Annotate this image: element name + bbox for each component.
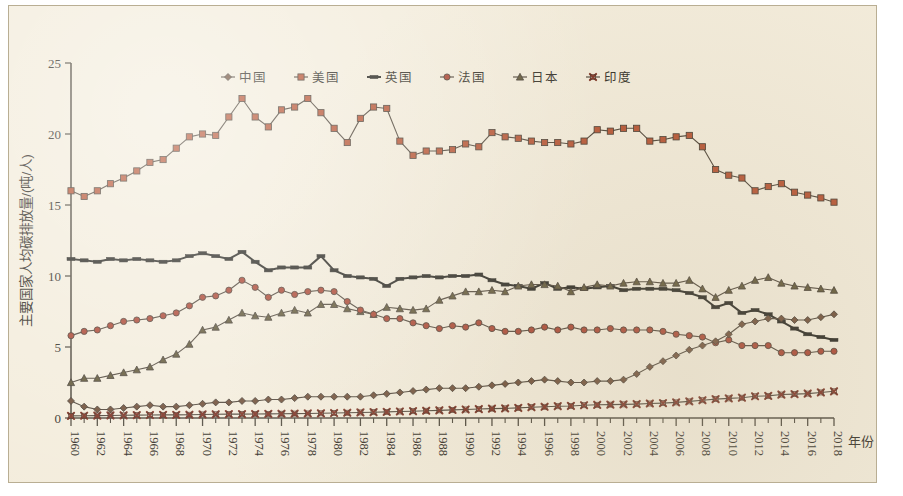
y-tick-label: 20 (48, 127, 61, 142)
x-tick-label: 2018 (831, 431, 845, 456)
y-tick-label: 15 (48, 198, 61, 213)
series-印度 (68, 388, 837, 419)
x-tick-label: 1968 (173, 431, 187, 456)
x-tick-label: 1980 (331, 431, 345, 456)
x-tick-label: 1960 (68, 431, 82, 456)
x-tick-label: 1976 (278, 431, 292, 456)
legend-label: 中国 (239, 70, 267, 85)
x-tick-label: 1978 (305, 431, 319, 456)
x-tick-label: 1970 (200, 431, 214, 456)
screenshot-page: 0510152025196019621964196619681970197219… (0, 0, 903, 496)
y-axis-label: 主要国家人均碳排放量/(吨/人) (18, 154, 34, 327)
series-法国 (68, 277, 837, 356)
chart-legend: 中国美国英国法国日本印度 (221, 70, 632, 85)
x-tick-label: 1982 (357, 431, 371, 456)
x-tick-label: 1990 (463, 431, 477, 456)
legend-label: 英国 (385, 71, 413, 85)
legend-label: 日本 (531, 71, 559, 85)
x-tick-label: 1994 (515, 431, 529, 457)
legend-item-印度[interactable]: 印度 (586, 70, 632, 85)
x-tick-label: 1988 (436, 431, 450, 456)
series-path (71, 280, 834, 352)
x-tick-label: 2014 (778, 431, 792, 457)
legend-item-英国[interactable]: 英国 (367, 71, 413, 85)
y-tick-label: 10 (48, 269, 61, 284)
legend-item-中国[interactable]: 中国 (221, 70, 267, 85)
chart-svg: 0510152025196019621964196619681970197219… (9, 6, 878, 484)
legend-item-法国[interactable]: 法国 (440, 71, 486, 85)
y-tick-label: 25 (48, 56, 61, 71)
x-tick-label: 2006 (673, 431, 687, 456)
x-tick-label: 1964 (121, 431, 135, 457)
x-tick-label: 1972 (226, 431, 240, 456)
x-tick-label: 1992 (489, 431, 503, 456)
x-tick-label: 2016 (805, 431, 819, 456)
legend-label: 印度 (604, 70, 632, 85)
x-tick-label: 1974 (252, 431, 266, 457)
x-tick-label: 2012 (752, 431, 766, 456)
legend-item-日本[interactable]: 日本 (513, 71, 559, 85)
line-chart: 0510152025196019621964196619681970197219… (9, 6, 878, 484)
series-美国 (68, 95, 837, 205)
x-tick-label: 1996 (542, 431, 556, 456)
x-tick-label: 1984 (384, 431, 398, 457)
x-tick-label: 1962 (94, 431, 108, 456)
legend-label: 美国 (312, 71, 340, 85)
x-axis-label: 年份 (848, 434, 874, 449)
x-tick-label: 1966 (147, 431, 161, 456)
x-tick-label: 2000 (594, 431, 608, 456)
series-日本 (67, 274, 837, 386)
x-tick-label: 1998 (568, 431, 582, 456)
paper-sheet: 0510152025196019621964196619681970197219… (8, 5, 877, 483)
x-tick-label: 1986 (410, 431, 424, 456)
legend-label: 法国 (458, 71, 486, 85)
legend-item-美国[interactable]: 美国 (294, 71, 340, 85)
x-tick-label: 2004 (647, 431, 661, 457)
y-tick-label: 5 (55, 340, 62, 355)
x-tick-label: 2010 (726, 431, 740, 456)
x-tick-label: 2008 (699, 431, 713, 456)
y-tick-label: 0 (55, 411, 62, 426)
x-tick-label: 2002 (621, 431, 635, 456)
